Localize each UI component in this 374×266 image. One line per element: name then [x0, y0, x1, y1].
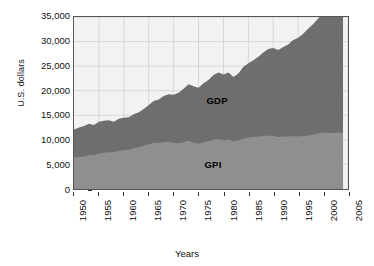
x-tick-label: 1960	[127, 200, 138, 221]
x-axis-ticks: 1950195519601965197019751980198519901995…	[0, 192, 374, 252]
x-tick-label: 1990	[278, 200, 289, 221]
y-tick-label: 10,000	[18, 134, 70, 145]
x-tick-mark	[123, 192, 124, 196]
x-tick-label: 1985	[253, 200, 264, 221]
x-tick-mark	[198, 192, 199, 196]
y-tick-mark	[88, 190, 92, 191]
gdp-gpi-area-chart: U.S. dollars 35,00030,00025,00020,00015,…	[0, 0, 374, 266]
x-tick-label: 2005	[353, 200, 364, 221]
x-tick-mark	[349, 192, 350, 196]
y-tick-label: 20,000	[18, 85, 70, 96]
y-tick-label: 25,000	[18, 60, 70, 71]
x-tick-mark	[173, 192, 174, 196]
x-tick-label: 1980	[228, 200, 239, 221]
x-tick-mark	[98, 192, 99, 196]
x-tick-mark	[148, 192, 149, 196]
x-tick-mark	[249, 192, 250, 196]
x-tick-label: 1950	[77, 200, 88, 221]
series-label-gdp: GDP	[207, 95, 228, 106]
x-tick-label: 1965	[152, 200, 163, 221]
x-tick-mark	[299, 192, 300, 196]
y-tick-label: 15,000	[18, 109, 70, 120]
x-tick-mark	[324, 192, 325, 196]
x-tick-label: 1955	[102, 200, 113, 221]
x-tick-label: 1970	[177, 200, 188, 221]
x-axis-title: Years	[0, 248, 374, 259]
x-tick-label: 2000	[328, 200, 339, 221]
x-tick-mark	[73, 192, 74, 196]
y-tick-label: 35,000	[18, 10, 70, 21]
x-tick-mark	[224, 192, 225, 196]
series-label-gpi: GPI	[205, 159, 222, 170]
x-tick-label: 1995	[303, 200, 314, 221]
y-tick-label: 30,000	[18, 35, 70, 46]
x-tick-mark	[274, 192, 275, 196]
x-tick-label: 1975	[202, 200, 213, 221]
y-tick-label: 5,000	[18, 159, 70, 170]
